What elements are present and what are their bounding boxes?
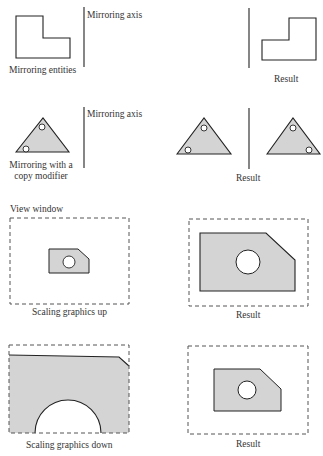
mirroring-row [16, 7, 316, 68]
scaling-down-caption: Scaling graphics down [26, 440, 113, 451]
hole-bottom [185, 147, 191, 153]
result-caption: Result [236, 173, 260, 184]
hole-top [39, 124, 45, 130]
result-caption: Result [236, 439, 260, 450]
l-shape-mirrored [262, 18, 316, 60]
result-caption: Result [236, 310, 260, 321]
hole-top [201, 125, 207, 131]
part-hole [236, 250, 260, 274]
scaling-up-row [10, 218, 308, 306]
view-window-label: View window [10, 204, 63, 215]
cad-transformations-figure: Mirroring axis Mirroring entities Result… [0, 0, 323, 456]
mirroring-axis-label: Mirroring axis [87, 10, 142, 21]
hole-top [290, 125, 296, 131]
scaling-up-caption: Scaling graphics up [32, 307, 107, 318]
mirroring-copy-caption-line2: copy modifier [6, 171, 76, 182]
mirroring-copy-caption-line1: Mirroring with a [6, 160, 76, 171]
part-hole [238, 381, 256, 399]
hole-bottom [306, 147, 312, 153]
mirroring-axis-label: Mirroring axis [87, 109, 142, 120]
part-hole [63, 256, 75, 268]
result-caption: Result [274, 74, 298, 85]
l-shape-original [16, 16, 70, 58]
hole-bottom [23, 146, 29, 152]
scaling-down-row [9, 345, 308, 434]
mirroring-entities-caption: Mirroring entities [9, 65, 76, 76]
